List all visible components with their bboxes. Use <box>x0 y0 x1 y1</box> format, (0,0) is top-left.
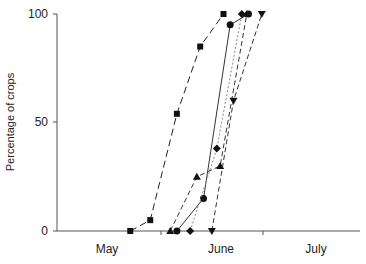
triangle-down-marker <box>258 11 266 18</box>
series-layer <box>127 10 266 235</box>
x-axis: May June July <box>57 231 360 256</box>
series-line <box>130 14 223 231</box>
x-label-july: July <box>305 242 326 256</box>
series-line <box>170 14 247 231</box>
y-tick-100: 100 <box>28 7 48 21</box>
square-marker <box>221 11 227 17</box>
square-marker <box>127 228 133 234</box>
series-line <box>212 14 262 231</box>
x-label-june: June <box>208 242 234 256</box>
circle-marker <box>173 228 180 235</box>
series-square <box>127 11 226 234</box>
triangle-down-marker <box>229 98 237 105</box>
series-triangle-down <box>208 11 266 235</box>
y-axis-title: Percentage of crops <box>4 72 16 171</box>
diamond-marker <box>186 227 194 235</box>
x-label-may: May <box>96 242 119 256</box>
square-marker <box>147 217 153 223</box>
diamond-marker <box>213 145 221 153</box>
circle-marker <box>227 21 234 28</box>
line-chart: 100 50 0 Percentage of crops May June Ju… <box>0 0 366 264</box>
series-line <box>177 14 249 231</box>
circle-marker <box>245 11 252 18</box>
series-triangle-up <box>166 10 251 234</box>
triangle-up-marker <box>193 173 201 180</box>
square-marker <box>174 111 180 117</box>
y-tick-50: 50 <box>35 115 49 129</box>
series-diamond <box>186 10 246 235</box>
y-tick-0: 0 <box>41 224 48 238</box>
y-axis: 100 50 0 Percentage of crops <box>4 7 57 238</box>
square-marker <box>197 44 203 50</box>
